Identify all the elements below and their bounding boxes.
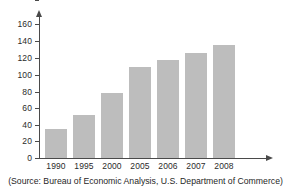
y-tick-mark xyxy=(35,24,39,25)
y-axis-arrow-icon xyxy=(36,10,42,17)
y-tick-label-120: 120 xyxy=(2,54,32,63)
y-tick-label-80: 80 xyxy=(2,88,32,97)
x-tick-label-2008: 2008 xyxy=(207,161,241,171)
x-axis-line xyxy=(39,158,267,159)
plot-area: 0 20 40 60 80 100 120 140 160 1990 1995 … xyxy=(0,0,291,168)
bar-2007 xyxy=(185,53,207,158)
y-tick-label-60: 60 xyxy=(2,104,32,113)
y-tick-mark xyxy=(35,141,39,142)
y-tick-label-140: 140 xyxy=(2,37,32,46)
y-tick-label-160: 160 xyxy=(2,20,32,29)
y-tick-label-100: 100 xyxy=(2,71,32,80)
y-tick-mark xyxy=(35,0,39,1)
y-tick-mark xyxy=(35,108,39,109)
bar-chart-figure: 0 20 40 60 80 100 120 140 160 1990 1995 … xyxy=(0,0,291,192)
bar-2006 xyxy=(157,60,179,158)
y-tick-mark xyxy=(35,41,39,42)
y-tick-mark xyxy=(35,158,39,159)
y-tick-label-0: 0 xyxy=(2,154,32,163)
y-tick-mark xyxy=(35,125,39,126)
y-tick-mark xyxy=(35,75,39,76)
bar-2005 xyxy=(129,67,151,158)
source-caption: (Source: Bureau of Economic Analysis, U.… xyxy=(0,175,291,187)
y-tick-mark xyxy=(35,92,39,93)
bar-2000 xyxy=(101,93,123,158)
y-tick-mark xyxy=(35,58,39,59)
bar-2008 xyxy=(213,45,235,158)
y-axis-line xyxy=(39,16,40,159)
bar-1995 xyxy=(73,115,95,158)
y-tick-label-20: 20 xyxy=(2,137,32,146)
x-axis-arrow-icon xyxy=(266,155,273,161)
bar-1990 xyxy=(45,129,67,158)
y-tick-label-40: 40 xyxy=(2,121,32,130)
